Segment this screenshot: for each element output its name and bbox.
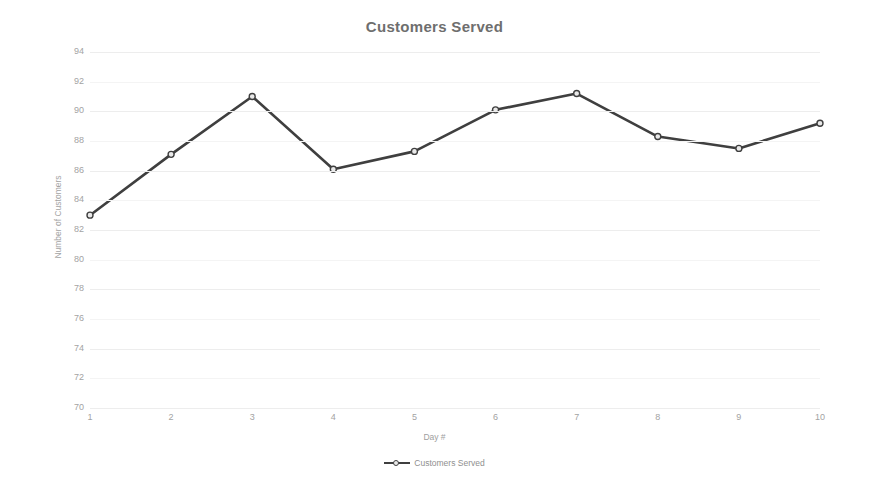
y-tick-label: 84 bbox=[44, 194, 84, 204]
y-tick-label: 78 bbox=[44, 283, 84, 293]
data-point-marker bbox=[817, 120, 823, 126]
gridline bbox=[90, 408, 820, 409]
gridline bbox=[90, 82, 820, 83]
x-tick-label: 10 bbox=[805, 412, 835, 422]
data-point-marker bbox=[655, 134, 661, 140]
chart-legend: Customers Served bbox=[0, 458, 869, 468]
y-axis: Number of Customers 70727476788082848688… bbox=[40, 52, 84, 408]
legend-marker-icon bbox=[384, 458, 410, 468]
gridline bbox=[90, 378, 820, 379]
y-tick-label: 74 bbox=[44, 343, 84, 353]
data-point-marker bbox=[168, 151, 174, 157]
gridline bbox=[90, 141, 820, 142]
x-axis: 12345678910 bbox=[90, 412, 820, 432]
gridline bbox=[90, 230, 820, 231]
data-point-marker bbox=[87, 212, 93, 218]
gridline bbox=[90, 171, 820, 172]
y-tick-label: 86 bbox=[44, 165, 84, 175]
y-tick-label: 90 bbox=[44, 105, 84, 115]
chart-title: Customers Served bbox=[0, 18, 869, 35]
gridline bbox=[90, 349, 820, 350]
data-point-marker bbox=[249, 94, 255, 100]
y-tick-label: 94 bbox=[44, 46, 84, 56]
y-tick-label: 80 bbox=[44, 254, 84, 264]
legend-label: Customers Served bbox=[414, 458, 484, 468]
data-point-marker bbox=[736, 145, 742, 151]
gridline bbox=[90, 319, 820, 320]
line-chart: Customers Served Number of Customers 707… bbox=[0, 0, 869, 498]
x-tick-label: 8 bbox=[643, 412, 673, 422]
data-point-marker bbox=[574, 91, 580, 97]
gridline bbox=[90, 200, 820, 201]
x-tick-label: 6 bbox=[481, 412, 511, 422]
y-tick-label: 70 bbox=[44, 402, 84, 412]
x-tick-label: 1 bbox=[75, 412, 105, 422]
x-tick-label: 9 bbox=[724, 412, 754, 422]
plot-area bbox=[90, 52, 820, 408]
y-tick-label: 88 bbox=[44, 135, 84, 145]
gridline bbox=[90, 289, 820, 290]
x-tick-label: 7 bbox=[562, 412, 592, 422]
y-tick-label: 76 bbox=[44, 313, 84, 323]
gridline bbox=[90, 260, 820, 261]
y-tick-label: 72 bbox=[44, 372, 84, 382]
y-axis-title: Number of Customers bbox=[53, 137, 63, 297]
y-tick-label: 92 bbox=[44, 76, 84, 86]
x-tick-label: 2 bbox=[156, 412, 186, 422]
y-tick-label: 82 bbox=[44, 224, 84, 234]
x-axis-title: Day # bbox=[0, 432, 869, 442]
gridline bbox=[90, 52, 820, 53]
gridline bbox=[90, 111, 820, 112]
x-tick-label: 4 bbox=[318, 412, 348, 422]
data-point-marker bbox=[411, 148, 417, 154]
x-tick-label: 5 bbox=[399, 412, 429, 422]
x-tick-label: 3 bbox=[237, 412, 267, 422]
